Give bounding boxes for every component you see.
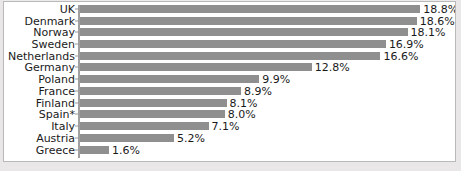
axis-tick [75, 137, 79, 138]
bar-value-label: 16.6% [383, 50, 418, 61]
category-label: Italy [51, 121, 75, 132]
bar [80, 122, 209, 130]
bar [80, 28, 408, 36]
chart-panel: UK18.8%Denmark18.6%Norway18.1%Sweden16.9… [3, 1, 456, 162]
page-margin-right [456, 0, 461, 171]
bar [80, 87, 241, 95]
bar-value-label: 18.6% [420, 15, 455, 26]
axis-tick [75, 43, 79, 44]
bar-value-label: 5.2% [177, 132, 205, 143]
category-label: Spain* [39, 109, 75, 120]
axis-tick [75, 32, 79, 33]
bar-row: France8.9% [4, 85, 456, 97]
bar [80, 40, 386, 48]
bar [80, 5, 420, 13]
bar-value-label: 16.9% [389, 38, 424, 49]
bar-row: Norway18.1% [4, 26, 456, 38]
bar-value-label: 12.8% [315, 62, 350, 73]
bar-row: Greece1.6% [4, 144, 456, 156]
axis-tick [75, 102, 79, 103]
axis-tick [75, 114, 79, 115]
category-label: France [38, 85, 75, 96]
category-label: Greece [36, 144, 75, 155]
category-label: Norway [33, 27, 75, 38]
bar-row: Netherlands16.6% [4, 50, 456, 62]
bar [80, 99, 227, 107]
bar-value-label: 8.0% [228, 109, 256, 120]
category-label: Austria [36, 132, 75, 143]
axis-tick [75, 79, 79, 80]
bar-row: Austria5.2% [4, 132, 456, 144]
bar-row: UK18.8% [4, 3, 456, 15]
axis-tick [75, 8, 79, 9]
category-label: Germany [24, 62, 75, 73]
bar [80, 110, 225, 118]
category-label: Finland [36, 97, 75, 108]
axis-tick [75, 67, 79, 68]
bar-row: Finland8.1% [4, 97, 456, 109]
axis-tick [75, 149, 79, 150]
category-label: Poland [38, 74, 75, 85]
bar-value-label: 1.6% [112, 144, 140, 155]
category-label: Denmark [24, 15, 75, 26]
page-margin-bottom [0, 162, 461, 171]
axis-tick [75, 126, 79, 127]
bar-value-label: 18.8% [423, 3, 456, 14]
bar [80, 52, 380, 60]
bar [80, 17, 417, 25]
bar-row: Denmark18.6% [4, 15, 456, 27]
bar-value-label: 9.9% [262, 74, 290, 85]
bar-row: Sweden16.9% [4, 38, 456, 50]
category-label: Netherlands [8, 50, 75, 61]
bar [80, 146, 109, 154]
bar-value-label: 18.1% [411, 27, 446, 38]
axis-tick [75, 20, 79, 21]
category-label: UK [60, 3, 75, 14]
bar [80, 134, 174, 142]
axis-tick [75, 55, 79, 56]
bar-row: Germany12.8% [4, 62, 456, 74]
bar-chart: UK18.8%Denmark18.6%Norway18.1%Sweden16.9… [0, 0, 461, 171]
bar [80, 75, 259, 83]
bar-row: Spain*8.0% [4, 109, 456, 121]
bar-row: Poland9.9% [4, 73, 456, 85]
bar [80, 63, 312, 71]
bar-value-label: 8.9% [244, 85, 272, 96]
bar-value-label: 7.1% [212, 121, 240, 132]
bar-value-label: 8.1% [230, 97, 258, 108]
bar-row: Italy7.1% [4, 120, 456, 132]
axis-tick [75, 90, 79, 91]
plot-area: UK18.8%Denmark18.6%Norway18.1%Sweden16.9… [4, 2, 456, 161]
category-label: Sweden [32, 38, 75, 49]
